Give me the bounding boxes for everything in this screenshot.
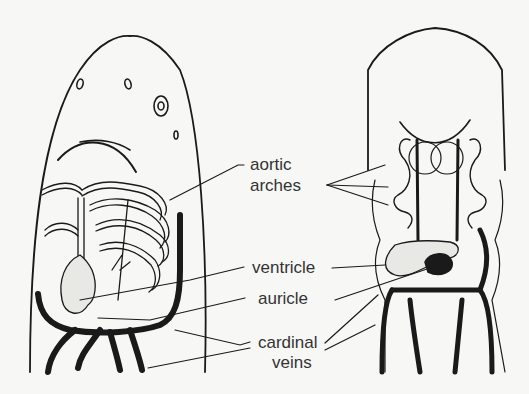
left-embryo-ventral-view	[30, 36, 250, 372]
right-embryo-dorsal-view	[325, 28, 505, 372]
eye-icon	[154, 96, 168, 116]
gill-pit-icon	[174, 131, 178, 139]
left-heart-ventricle	[61, 255, 95, 313]
right-nostril-icon	[124, 78, 132, 89]
label-auricle: auricle	[258, 290, 308, 308]
label-aortic-arches-line1: aortic	[250, 156, 292, 174]
label-aortic-arches-line2: arches	[250, 177, 301, 195]
left-leader-lines	[80, 165, 250, 368]
right-heart-auricle	[425, 254, 452, 275]
left-nostril-icon	[76, 78, 84, 89]
label-ventricle: ventricle	[252, 259, 315, 277]
right-head-outline	[368, 28, 505, 170]
label-cardinal-veins-line2: veins	[272, 354, 312, 372]
left-cardinal-veins	[38, 215, 180, 372]
label-cardinal-veins-line1: cardinal	[258, 334, 318, 352]
